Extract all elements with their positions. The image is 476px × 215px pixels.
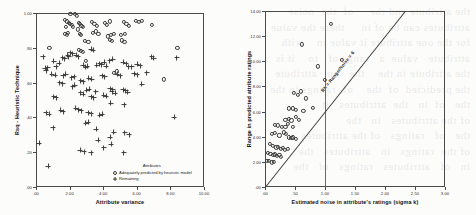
x-tick-label: 4.00 xyxy=(99,191,107,196)
y-tick-label: .20 xyxy=(14,150,32,155)
data-point-plus xyxy=(41,54,46,59)
data-point-plus xyxy=(122,102,127,107)
data-point-plus xyxy=(104,64,109,69)
data-point-plus xyxy=(109,142,114,147)
plot-area-right xyxy=(265,11,445,187)
x-tick xyxy=(70,187,71,190)
data-point-plus xyxy=(51,125,56,130)
y-tick-label: .80 xyxy=(14,45,32,50)
data-point-plus xyxy=(37,141,42,146)
legend-circle-marker-icon xyxy=(112,171,117,176)
data-point-plus xyxy=(85,64,90,69)
y-tick-label: 12.00 xyxy=(243,34,261,39)
data-point-plus xyxy=(82,149,87,154)
data-point-plus xyxy=(127,132,132,137)
data-point-plus xyxy=(63,72,68,77)
y-tick-label: 8.00 xyxy=(243,84,261,89)
y-tick xyxy=(262,112,265,113)
data-point-plus xyxy=(121,150,126,155)
data-point-plus xyxy=(101,145,106,150)
figure-container: Attribute variance Rsq - Heuristic Techn… xyxy=(0,0,476,215)
x-tick-label: .50 xyxy=(292,191,298,196)
y-tick xyxy=(33,187,36,188)
data-point-plus xyxy=(129,64,134,69)
x-tick-label: .00 xyxy=(262,191,268,196)
data-point-plus xyxy=(46,164,51,169)
data-point-plus xyxy=(81,92,86,97)
data-point-plus xyxy=(110,57,115,62)
data-point-plus xyxy=(72,83,77,88)
data-point-plus xyxy=(87,87,92,92)
y-tick xyxy=(33,117,36,118)
x-tick xyxy=(355,187,356,190)
x-tick-label: 8.00 xyxy=(166,191,174,196)
data-point-plus xyxy=(96,138,101,143)
y-tick-label: .40 xyxy=(14,115,32,120)
data-point-plus xyxy=(81,79,86,84)
data-point-plus xyxy=(135,72,140,77)
chart-right-range-vs-noise: Estimated noise in attribute's ratings (… xyxy=(238,0,476,215)
x-tick xyxy=(36,187,37,190)
data-point-plus xyxy=(72,74,77,79)
x-tick-label: 3.00 xyxy=(441,191,449,196)
data-point-plus xyxy=(79,108,84,113)
y-tick-label: 6.00 xyxy=(243,109,261,114)
legend-entry-plus: Remaining xyxy=(112,176,192,182)
x-tick xyxy=(415,187,416,190)
x-tick xyxy=(325,187,326,190)
x-tick xyxy=(445,187,446,190)
figure-page: the attribute and the of the noise attri… xyxy=(0,0,476,215)
data-point-plus xyxy=(104,94,109,99)
data-point-plus xyxy=(151,56,156,61)
y-tick xyxy=(33,152,36,153)
data-point-plus xyxy=(51,59,56,64)
y-tick-label: 2.00 xyxy=(243,159,261,164)
y-tick xyxy=(262,36,265,37)
x-tick xyxy=(103,187,104,190)
y-tick xyxy=(33,48,36,49)
x-tick-label: .00 xyxy=(33,191,39,196)
data-point-plus xyxy=(174,55,179,60)
data-point-plus xyxy=(45,65,50,70)
data-point-plus xyxy=(172,115,177,120)
data-point-plus xyxy=(113,91,118,96)
data-point-plus xyxy=(94,127,99,132)
data-point-plus xyxy=(102,74,107,79)
reference-vline xyxy=(325,11,326,187)
y-axis-title-left: Rsq - Heuristic Technique xyxy=(14,65,20,135)
legend-label-remaining: Remaining xyxy=(119,176,139,182)
y-tick-label: .00 xyxy=(14,185,32,190)
x-tick xyxy=(295,187,296,190)
y-tick-label: 10.00 xyxy=(243,59,261,64)
data-point-plus xyxy=(57,61,62,66)
data-point-plus xyxy=(100,112,105,117)
x-tick xyxy=(137,187,138,190)
data-point-plus xyxy=(89,111,94,116)
y-axis-title-right: Range in predicted attribute ratings xyxy=(246,51,252,147)
legend-left: Attributes Adequately predicted by heuri… xyxy=(112,163,192,182)
x-tick-label: 2.00 xyxy=(65,191,73,196)
y-tick xyxy=(33,13,36,14)
y-tick-label: 4.00 xyxy=(243,134,261,139)
y-tick-label: 1.00 xyxy=(14,11,32,16)
data-point-plus xyxy=(91,95,96,100)
x-tick-label: 2.00 xyxy=(381,191,389,196)
x-tick-label: 1.50 xyxy=(351,191,359,196)
data-point-plus xyxy=(138,63,143,68)
data-point-plus xyxy=(125,90,130,95)
x-tick xyxy=(204,187,205,190)
data-point-plus xyxy=(86,120,91,125)
data-point-plus xyxy=(61,109,66,114)
y-tick xyxy=(262,61,265,62)
x-tick-label: 10.00 xyxy=(199,191,210,196)
legend-title: Attributes xyxy=(112,163,192,169)
y-tick-label: 14.00 xyxy=(243,9,261,14)
data-point-plus xyxy=(108,135,113,140)
data-point-plus xyxy=(144,70,149,75)
y-tick-label: .00 xyxy=(243,185,261,190)
x-tick xyxy=(385,187,386,190)
data-point-plus xyxy=(89,77,94,82)
x-axis-title-left: Attribute variance xyxy=(96,199,145,205)
data-point-plus xyxy=(108,101,113,106)
legend-plus-marker-icon xyxy=(112,177,117,182)
